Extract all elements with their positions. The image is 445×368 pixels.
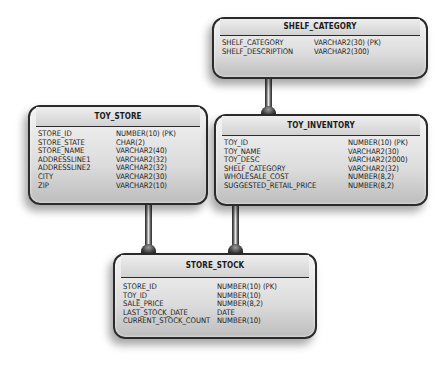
entity-title: SHELF_CATEGORY	[220, 19, 420, 36]
entity-shelf-category[interactable]: SHELF_CATEGORY SHELF_CATEGORYVARCHAR2(30…	[212, 17, 428, 79]
field-row: SHELF_DESCRIPTIONVARCHAR2(300)	[222, 48, 418, 57]
entity-title: TOY_STORE	[36, 107, 200, 127]
field-row: SUGGESTED_RETAIL_PRICENUMBER(8,2)	[224, 182, 418, 191]
entity-toy-inventory[interactable]: TOY_INVENTORY TOY_IDNUMBER(10) (PK) TOY_…	[214, 114, 428, 206]
entity-store-stock[interactable]: STORE_STOCK STORE_IDNUMBER(10) (PK) TOY_…	[113, 253, 317, 339]
entity-title: TOY_INVENTORY	[222, 116, 420, 136]
entity-title: STORE_STOCK	[121, 255, 309, 278]
entity-toy-store[interactable]: TOY_STORE STORE_IDNUMBER(10) (PK) STORE_…	[28, 105, 208, 205]
field-row: ZIPVARCHAR2(10)	[38, 182, 198, 191]
field-row: CURRENT_STOCK_COUNTNUMBER(10)	[123, 317, 307, 326]
field-row: STORE_IDNUMBER(10) (PK)	[123, 283, 307, 292]
